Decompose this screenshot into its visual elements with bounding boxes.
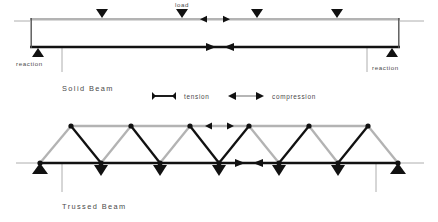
diagonal-1-compression	[40, 126, 71, 163]
truss-diagonals	[40, 126, 398, 163]
bottom-node-3	[157, 160, 162, 165]
diagonal-4-tension	[131, 126, 160, 163]
diagonal-6-tension	[190, 126, 219, 163]
solid-beam-caption: Solid Beam	[62, 84, 114, 93]
top-node-2	[128, 123, 133, 128]
reaction-arrow-right	[386, 48, 398, 57]
legend-tension-label: tension	[184, 93, 210, 100]
structural-diagram: load reaction reaction Solid Beam	[0, 0, 438, 222]
truss-tension-arrowhead-right	[253, 159, 263, 167]
legend-tension-arrowhead-left	[152, 92, 156, 100]
truss-load-arrow-2	[153, 165, 167, 176]
load-label: load	[175, 1, 189, 8]
truss-compression-arrowhead-left	[205, 123, 212, 130]
diagonal-12-compression	[368, 126, 398, 163]
diagonal-11-tension	[338, 126, 368, 163]
diagonal-7-tension	[219, 126, 249, 163]
top-node-1	[68, 123, 73, 128]
legend-compression-label: compression	[272, 93, 316, 101]
bottom-node-6	[335, 160, 340, 165]
solid-beam-group: load reaction reaction Solid Beam	[14, 1, 424, 93]
truss-load-arrow-3	[212, 165, 226, 176]
load-arrow-2	[176, 9, 188, 18]
top-node-3	[187, 123, 192, 128]
top-node-4	[246, 123, 251, 128]
bottom-node-2	[98, 160, 103, 165]
truss-reaction-arrow-right	[390, 163, 406, 174]
legend-group: tension compression	[152, 92, 316, 101]
beam-body-fill	[30, 18, 400, 48]
diagonal-10-compression	[309, 126, 338, 163]
reaction-arrow-left	[32, 48, 44, 57]
top-node-5	[306, 123, 311, 128]
truss-loads	[94, 165, 345, 176]
truss-tension-arrowhead-left	[235, 159, 245, 167]
reaction-label-right: reaction	[372, 64, 399, 71]
load-arrow-1	[96, 9, 108, 18]
legend-compression-arrowhead-right	[256, 92, 264, 100]
diagonal-8-compression	[249, 126, 279, 163]
diagonal-5-compression	[160, 126, 190, 163]
legend-compression-arrowhead-left	[228, 92, 236, 100]
diagonal-2-tension	[71, 126, 101, 163]
legend-item-tension: tension	[152, 92, 210, 100]
diagonal-3-compression	[101, 126, 131, 163]
legend-item-compression: compression	[228, 92, 316, 101]
legend-tension-arrowhead-right	[172, 92, 176, 100]
trussed-beam-caption: Trussed Beam	[62, 202, 127, 211]
load-arrow-4	[331, 9, 343, 18]
bottom-node-4	[216, 160, 221, 165]
truss-joints	[37, 123, 400, 165]
truss-reaction-arrow-left	[32, 163, 48, 174]
top-node-6	[365, 123, 370, 128]
reaction-label-left: reaction	[16, 60, 43, 67]
load-arrow-3	[251, 9, 263, 18]
truss-load-arrow-4	[272, 165, 286, 176]
truss-compression-arrowhead-right	[227, 123, 234, 130]
truss-load-arrow-5	[331, 165, 345, 176]
figure-canvas: load reaction reaction Solid Beam	[0, 0, 438, 222]
bottom-node-5	[276, 160, 281, 165]
trussed-beam-group: Trussed Beam	[16, 123, 424, 211]
truss-load-arrow-1	[94, 165, 108, 176]
diagonal-9-tension	[279, 126, 309, 163]
